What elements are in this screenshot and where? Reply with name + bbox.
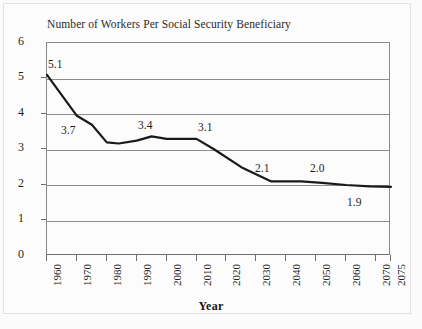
x-tick-mark [46,255,47,261]
x-tick-mark [76,255,77,261]
point-label-5-1: 5.1 [48,58,62,70]
x-tick-label: 2000 [171,264,183,286]
x-tick-mark [255,255,256,261]
point-label-1-9: 1.9 [347,196,361,208]
y-tick-label: 2 [0,176,24,191]
point-label-2-1: 2.1 [255,162,269,174]
x-tick-mark [375,255,376,261]
x-tick-label: 1990 [141,264,153,286]
workers-per-beneficiary-line [47,75,391,187]
x-tick-label: 2075 [395,264,407,286]
x-tick-mark [345,255,346,261]
x-tick-mark [166,255,167,261]
x-tick-mark [225,255,226,261]
x-tick-mark [196,255,197,261]
x-tick-mark [285,255,286,261]
y-tick-label: 0 [0,247,24,262]
x-tick-label: 1980 [111,264,123,286]
point-label-3-4: 3.4 [138,119,152,131]
x-tick-mark [390,255,391,261]
chart-title: Number of Workers Per Social Security Be… [47,18,291,30]
x-tick-label: 1970 [81,264,93,286]
x-tick-label: 2020 [230,264,242,286]
x-tick-mark [315,255,316,261]
y-tick-label: 5 [0,69,24,84]
x-tick-label: 2040 [290,264,302,286]
plot-area [46,42,390,255]
x-tick-label: 2010 [201,264,213,286]
x-tick-mark [106,255,107,261]
point-label-2-0: 2.0 [310,162,324,174]
figure-container: Number of Workers Per Social Security Be… [0,0,422,329]
y-tick-label: 1 [0,211,24,226]
y-tick-label: 4 [0,105,24,120]
point-label-3-7: 3.7 [61,124,75,136]
x-tick-label: 2050 [320,264,332,286]
x-tick-label: 2060 [350,264,362,286]
x-tick-label: 2070 [380,264,392,286]
point-label-3-1: 3.1 [198,121,212,133]
x-axis-title: Year [0,299,422,314]
y-tick-label: 3 [0,140,24,155]
y-tick-label: 6 [0,34,24,49]
x-tick-label: 2030 [260,264,272,286]
data-series-line [47,43,391,256]
x-tick-label: 1960 [51,264,63,286]
x-tick-mark [136,255,137,261]
